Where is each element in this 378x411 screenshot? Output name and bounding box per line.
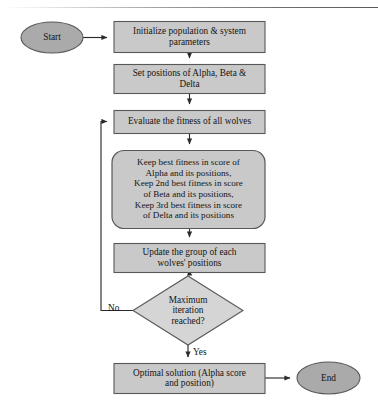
node-set-positions [114, 65, 265, 94]
node-initialize [114, 22, 265, 53]
node-end [297, 362, 360, 394]
node-start [21, 22, 83, 53]
node-evaluate-fitness [114, 111, 265, 134]
node-update-group [114, 244, 265, 273]
node-optimal-solution [114, 364, 265, 394]
flowchart-canvas: Start Initialize population & system par… [0, 0, 378, 411]
node-max-iteration-decision [133, 276, 243, 345]
flowchart-shapes-layer [0, 0, 378, 411]
node-keep-best [112, 151, 265, 229]
